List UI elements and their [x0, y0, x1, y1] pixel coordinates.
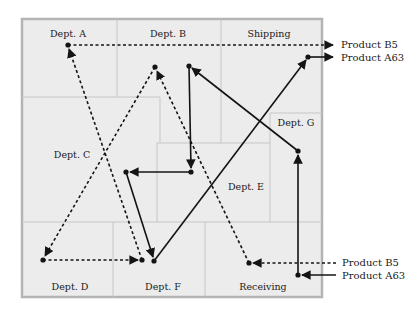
- dept-c-label: Dept. C: [54, 149, 90, 160]
- b5-dot-f: [139, 257, 144, 262]
- a63-dot-shipping: [305, 54, 310, 59]
- a63-dot-receiving: [295, 272, 300, 277]
- b5-dot-b: [152, 64, 157, 69]
- label-bottom-a63: Product A63: [342, 270, 405, 281]
- dept-g-label: Dept. G: [278, 117, 315, 128]
- a63-dot-b: [186, 63, 191, 68]
- shipping-label: Shipping: [247, 28, 290, 39]
- b5-dot-d: [40, 257, 45, 262]
- product-labels: Product B5 Product A63 Product B5 Produc…: [341, 39, 405, 281]
- b5-dot-receiving: [246, 260, 251, 265]
- dept-f-label: Dept. F: [145, 281, 181, 292]
- flow-diagram: Dept. A Dept. B Shipping Dept. G Dept. C…: [0, 0, 419, 311]
- label-top-b5: Product B5: [341, 39, 398, 50]
- label-top-a63: Product A63: [341, 52, 404, 63]
- a63-dot-g: [295, 148, 300, 153]
- dept-e-label: Dept. E: [228, 181, 264, 192]
- a63-dot-f: [151, 258, 156, 263]
- label-bottom-b5: Product B5: [342, 257, 399, 268]
- dept-a-label: Dept. A: [50, 28, 86, 39]
- a63-dot-c: [123, 169, 128, 174]
- dept-b-label: Dept. B: [150, 28, 186, 39]
- a63-dot-e: [188, 169, 193, 174]
- dept-d-label: Dept. D: [52, 281, 89, 292]
- receiving-label: Receiving: [239, 281, 286, 292]
- b5-dot-a: [65, 42, 70, 47]
